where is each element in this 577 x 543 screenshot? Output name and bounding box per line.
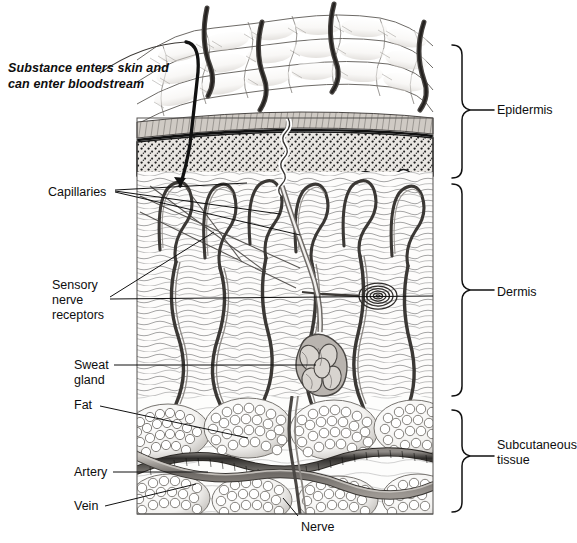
brace-subcutaneous xyxy=(452,410,494,512)
label-capillaries: Capillaries xyxy=(48,185,106,200)
brace-dermis xyxy=(452,184,494,396)
label-dermis: Dermis xyxy=(497,285,537,300)
label-sensory-nerve-receptors: Sensory nerve receptors xyxy=(52,278,104,323)
label-vein: Vein xyxy=(74,499,98,514)
label-nerve: Nerve xyxy=(301,520,334,535)
label-artery: Artery xyxy=(74,465,107,480)
label-sweat-gland: Sweat gland xyxy=(74,358,109,388)
callout-substance-text: Substance enters skin and can enter bloo… xyxy=(8,60,188,92)
label-subcutaneous-tissue: Subcutaneous tissue xyxy=(497,438,577,468)
label-epidermis: Epidermis xyxy=(497,103,553,118)
label-fat: Fat xyxy=(74,398,92,413)
brace-epidermis xyxy=(452,45,494,178)
layer-braces xyxy=(452,45,494,512)
